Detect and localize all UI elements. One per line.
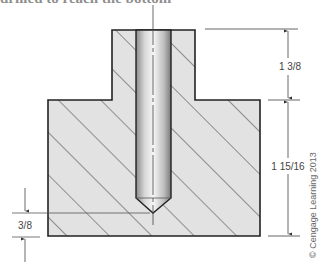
drill-bit [136,30,171,213]
dim-label-base-height: 1 15/16 [271,161,305,172]
drill-cross-section-diagram: 1 3/8 1 15/16 3/8 © Cengage Learning 201… [0,0,324,277]
copyright-notice: © Cengage Learning 2013 [308,152,318,258]
dim-label-clearance: 3/8 [18,220,32,231]
dim-label-boss-height: 1 3/8 [279,61,302,72]
